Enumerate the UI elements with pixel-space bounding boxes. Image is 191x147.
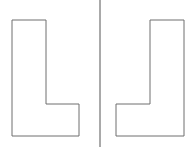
- right-mirrored-l-shape: [116, 20, 184, 136]
- figure-canvas: [0, 0, 191, 147]
- left-l-shape: [12, 20, 79, 136]
